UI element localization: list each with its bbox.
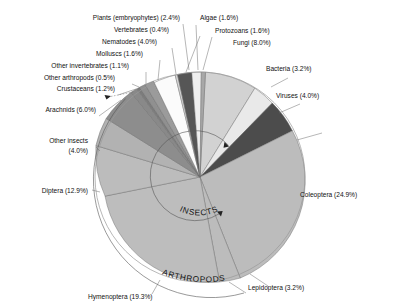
label-algae: Algae (1.6%) xyxy=(200,14,238,22)
label-coleoptera: Coleoptera (24.9%) xyxy=(300,191,357,199)
label-other-invertebrates: Other invertebrates (1.1%) xyxy=(51,62,129,70)
label-hymenoptera: Hymenoptera (19.3%) xyxy=(88,293,153,301)
label-vertebrates: Vertebrates (0.4%) xyxy=(114,26,169,34)
label-arachnids: Arachnids (6.0%) xyxy=(45,106,96,114)
label-lepidoptera: Lepidoptera (3.2%) xyxy=(248,284,304,292)
label-bacteria: Bacteria (3.2%) xyxy=(266,65,311,73)
label-other-insects-value: (4.0%) xyxy=(69,147,88,155)
label-protozoans: Protozoans (1.6%) xyxy=(215,27,270,35)
label-diptera: Diptera (12.9%) xyxy=(42,187,88,195)
label-other-insects: Other insects xyxy=(49,137,89,144)
label-viruses: Viruses (4.0%) xyxy=(276,92,319,100)
label-fungi: Fungi (8.0%) xyxy=(233,39,271,47)
tiny-wedge-arrow xyxy=(105,95,112,100)
label-plants: Plants (embryophytes) (2.4%) xyxy=(93,14,180,22)
label-crustaceans: Crustaceans (1.2%) xyxy=(57,85,115,93)
species-pie-chart: Plants (embryophytes) (2.4%) Algae (1.6%… xyxy=(0,0,400,307)
label-nematodes: Nematodes (4.0%) xyxy=(102,38,157,46)
label-other-arthropods: Other arthropods (0.5%) xyxy=(44,74,115,82)
pie-wedges xyxy=(96,72,306,283)
label-molluscs: Molluscs (1.6%) xyxy=(96,50,143,58)
figure-canvas: Plants (embryophytes) (2.4%) Algae (1.6%… xyxy=(0,0,400,307)
